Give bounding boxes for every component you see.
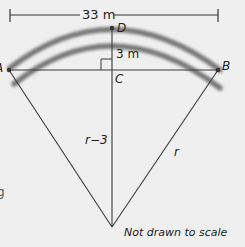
- point-label-c: C: [115, 73, 123, 85]
- point-label-b: B: [222, 60, 230, 72]
- point-a-dot: [7, 68, 11, 72]
- cropped-text-fragment: g: [0, 186, 5, 198]
- segment-label-r-minus-3: r−3: [85, 134, 108, 146]
- point-d-dot: [110, 26, 114, 30]
- point-b-dot: [216, 68, 220, 72]
- scale-note: Not drawn to scale: [124, 227, 227, 238]
- point-label-a: A: [0, 62, 3, 74]
- dimension-label: 33 m: [82, 8, 115, 21]
- segment-label-r: r: [174, 146, 179, 158]
- radius-left: [9, 70, 112, 227]
- radius-right: [112, 70, 218, 227]
- height-label: 3 m: [116, 48, 139, 60]
- arc-bridge-diagram: [0, 0, 245, 247]
- right-angle-marker: [101, 59, 112, 70]
- point-label-d: D: [117, 22, 126, 34]
